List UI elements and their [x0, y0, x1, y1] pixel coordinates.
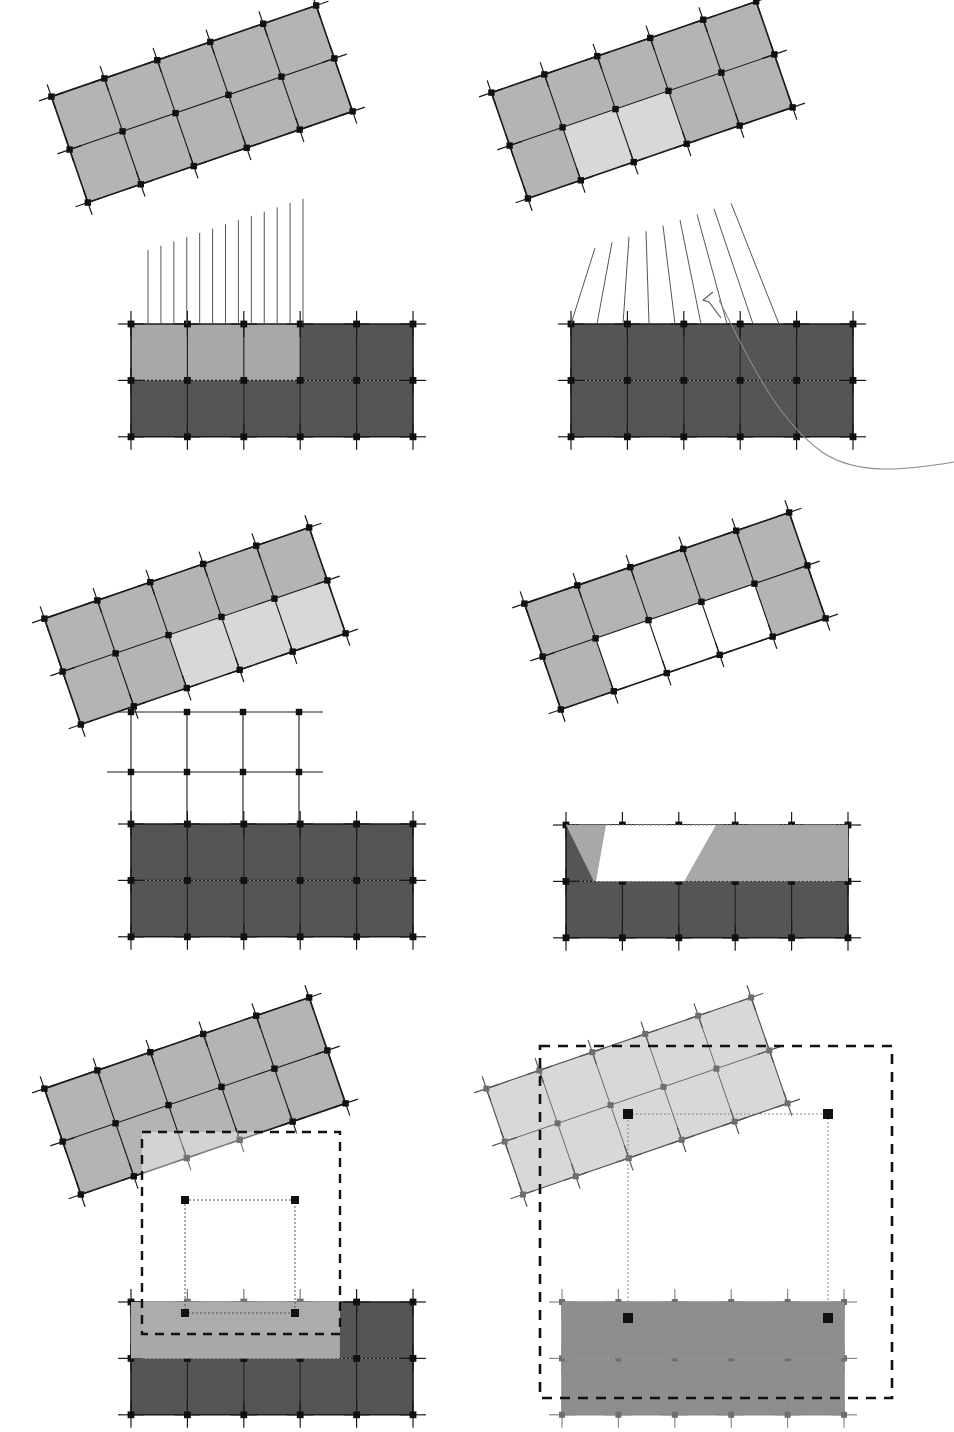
fanned-projection-with-curve-panel	[477, 0, 954, 477]
target-cell	[357, 380, 413, 436]
target-node	[841, 1412, 847, 1418]
target-node	[410, 321, 417, 328]
source-node	[289, 1118, 295, 1124]
target-node	[793, 433, 800, 440]
target-cell	[187, 824, 243, 880]
source-node	[131, 703, 137, 709]
source-node	[748, 994, 754, 1000]
source-node	[165, 1102, 171, 1108]
source-node	[717, 652, 723, 658]
target-node	[184, 877, 191, 884]
source-node	[664, 670, 670, 676]
target-node	[353, 1299, 360, 1306]
corner-marker	[291, 1196, 299, 1204]
subgrid-node	[240, 769, 246, 775]
target-node	[184, 321, 191, 328]
source-node	[101, 75, 107, 81]
source-node	[342, 1100, 348, 1106]
target-node	[184, 433, 191, 440]
target-cell	[792, 881, 848, 937]
source-node	[165, 632, 171, 638]
source-node	[665, 88, 671, 94]
source-node	[771, 51, 777, 57]
target-node	[353, 321, 360, 328]
source-node	[184, 685, 190, 691]
target-cell	[300, 1358, 356, 1414]
source-node	[78, 721, 84, 727]
target-node	[297, 433, 304, 440]
source-node	[573, 1173, 579, 1179]
source-node	[488, 89, 494, 95]
target-node	[410, 377, 417, 384]
overlap-region	[566, 825, 848, 881]
source-node	[698, 599, 704, 605]
source-node	[331, 55, 337, 61]
projection-line	[597, 242, 612, 324]
source-node	[608, 1102, 614, 1108]
source-node	[260, 21, 266, 27]
source-node	[539, 653, 545, 659]
source-node	[200, 1031, 206, 1037]
subgrid-node	[128, 709, 134, 715]
source-node	[271, 595, 277, 601]
target-cell	[131, 380, 187, 436]
source-node	[631, 159, 637, 165]
target-cell	[187, 380, 243, 436]
source-node	[218, 614, 224, 620]
target-node	[563, 878, 570, 885]
target-node	[297, 377, 304, 384]
target-cell	[187, 1358, 243, 1414]
target-node	[680, 433, 687, 440]
bounding-box-large-panel	[477, 980, 954, 1432]
source-node	[521, 600, 527, 606]
target-cell	[618, 1358, 674, 1414]
panel-2	[477, 0, 954, 477]
target-node	[410, 1355, 417, 1362]
source-node	[502, 1139, 508, 1145]
bounding-box-small-panel	[0, 980, 477, 1432]
source-node	[785, 1100, 791, 1106]
target-node	[672, 1412, 678, 1418]
target-node	[737, 321, 744, 328]
source-node	[225, 92, 231, 98]
target-node	[624, 377, 631, 384]
target-cell	[627, 380, 683, 436]
source-node	[789, 104, 795, 110]
target-cell	[244, 880, 300, 936]
target-node	[680, 377, 687, 384]
target-cell	[244, 324, 300, 380]
target-node	[410, 1299, 417, 1306]
projection-line	[680, 220, 701, 324]
target-node	[559, 1412, 565, 1418]
source-node	[244, 145, 250, 151]
source-node	[611, 688, 617, 694]
source-node	[41, 615, 47, 621]
target-node	[353, 821, 360, 828]
source-node	[278, 73, 284, 79]
source-node	[804, 562, 810, 568]
source-node	[237, 667, 243, 673]
source-node	[612, 106, 618, 112]
target-cell	[797, 380, 853, 436]
projection-line	[646, 231, 649, 324]
source-node	[647, 35, 653, 41]
source-node	[131, 1173, 137, 1179]
source-node	[718, 69, 724, 75]
target-node	[128, 877, 135, 884]
source-node	[559, 124, 565, 130]
corner-marker	[181, 1309, 189, 1317]
target-node	[410, 821, 417, 828]
source-node	[349, 108, 355, 114]
source-node	[536, 1067, 542, 1073]
subgrid-overlay-panel	[0, 480, 477, 957]
subgrid-node	[184, 709, 190, 715]
projection-line	[571, 248, 595, 324]
source-node	[786, 509, 792, 515]
panel-3	[0, 480, 477, 957]
target-node	[619, 934, 626, 941]
source-node	[555, 1120, 561, 1126]
source-node	[119, 128, 125, 134]
target-node	[184, 933, 191, 940]
target-node	[184, 1411, 191, 1418]
target-node	[563, 934, 570, 941]
